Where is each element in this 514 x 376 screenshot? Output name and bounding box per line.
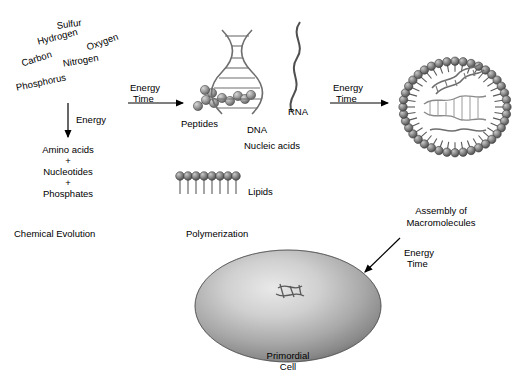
caption-assembly-line2: Macromolecules — [381, 217, 501, 228]
stage3-arrow-label-time: Time — [336, 93, 357, 104]
product-phosphates: Phosphates — [20, 188, 116, 199]
product-nucleotides: Nucleotides — [20, 166, 116, 177]
product-amino-acids: Amino acids — [20, 144, 116, 155]
label-dna: DNA — [247, 124, 267, 135]
label-lipids: Lipids — [248, 186, 273, 197]
stage2-arrow-label-time: Time — [133, 93, 154, 104]
stage4-arrow-label-time: Time — [407, 258, 428, 269]
stage1-arrow-label-energy: Energy — [76, 114, 106, 125]
stage4-arrow-label-energy: Energy — [404, 247, 434, 258]
label-peptides: Peptides — [181, 118, 218, 129]
rna-strand-graphic — [290, 22, 300, 112]
stage3-arrow-label-energy: Energy — [333, 82, 363, 93]
caption-primordial-line2: Cell — [228, 361, 348, 372]
primordial-cell-graphic — [195, 250, 381, 362]
lipid-bilayer-graphic — [176, 172, 241, 194]
peptide-chain-graphic — [193, 85, 255, 110]
caption-assembly-line1: Assembly of — [381, 205, 501, 216]
caption-polymerization: Polymerization — [186, 228, 248, 239]
caption-primordial-line1: Primordial — [228, 350, 348, 361]
caption-chemical-evolution: Chemical Evolution — [14, 228, 95, 239]
figure-canvas: Sulfur Hydrogen Oxygen Carbon Nitrogen P… — [0, 0, 514, 376]
label-rna: RNA — [288, 106, 308, 117]
macromolecule-assembly-graphic — [399, 57, 511, 157]
stage2-arrow-label-energy: Energy — [130, 82, 160, 93]
product-plus-1: + — [20, 155, 116, 166]
product-plus-2: + — [20, 177, 116, 188]
label-nucleic-acids: Nucleic acids — [244, 140, 300, 151]
primordial-cell-arrow — [365, 238, 400, 272]
